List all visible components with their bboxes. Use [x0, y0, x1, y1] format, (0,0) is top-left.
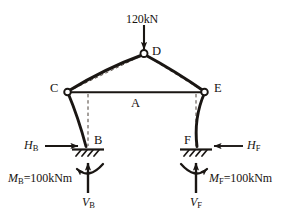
- hinge-c: [64, 89, 71, 96]
- moment-mb-arc: [77, 164, 103, 173]
- reaction-hb-sub: B: [33, 143, 39, 153]
- diagram-canvas: [0, 0, 291, 221]
- reaction-label-hb: HB: [24, 139, 38, 152]
- moment-mf-value: 100kNm: [230, 171, 272, 185]
- reaction-hf-var: H: [247, 138, 256, 152]
- support-f: [180, 150, 212, 157]
- node-label-b: B: [94, 134, 102, 147]
- node-label-f: F: [184, 134, 191, 147]
- reaction-vf-sub: F: [197, 200, 202, 210]
- moment-mf-var: M: [209, 171, 219, 185]
- applied-load-label: 120kN: [126, 13, 158, 25]
- member-column-ef: [196, 93, 204, 147]
- reaction-hb-var: H: [24, 138, 33, 152]
- moment-mb-value: 100kNm: [30, 171, 72, 185]
- node-label-e: E: [214, 82, 222, 95]
- node-label-d: D: [152, 45, 161, 58]
- member-column-cb: [68, 93, 86, 147]
- frame-free-body-diagram: 120kN D C E A B F HB HF VB VF MB=100kNm …: [0, 0, 291, 221]
- node-label-a: A: [131, 97, 140, 110]
- reaction-label-hf: HF: [247, 139, 260, 152]
- reaction-label-vf: VF: [190, 196, 202, 209]
- hinge-d: [141, 50, 148, 57]
- reaction-vb-sub: B: [89, 200, 95, 210]
- support-b: [72, 150, 104, 157]
- reaction-label-vb: VB: [82, 196, 95, 209]
- member-rafter-de: [145, 55, 205, 92]
- hinge-e: [201, 89, 208, 96]
- moment-mf-arc: [181, 164, 207, 173]
- moment-label-mb: MB=100kNm: [8, 172, 72, 185]
- node-label-c: C: [50, 82, 58, 95]
- moment-label-mf: MF=100kNm: [209, 172, 272, 185]
- moment-mb-var: M: [8, 171, 18, 185]
- reaction-hf-sub: F: [256, 143, 261, 153]
